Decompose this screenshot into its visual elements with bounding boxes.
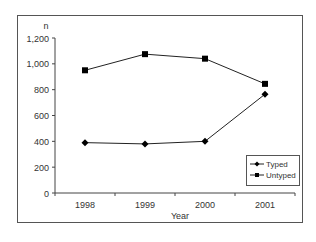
legend-label: Untyped	[266, 171, 296, 180]
y-tick-label: 200	[34, 163, 49, 173]
y-tick-label: 800	[34, 85, 49, 95]
chart-frame	[18, 16, 303, 223]
y-tick-label: 0	[44, 189, 49, 199]
y-tick-label: 600	[34, 111, 49, 121]
x-tick-label: 1999	[135, 200, 155, 210]
x-axis-label: Year	[171, 211, 189, 221]
legend: TypedUntyped	[247, 156, 300, 186]
x-tick-label: 2000	[195, 200, 215, 210]
square-marker	[202, 56, 208, 62]
square-marker	[262, 81, 268, 87]
square-marker	[142, 51, 148, 57]
y-axis-label: n	[43, 21, 48, 31]
square-marker	[255, 173, 259, 177]
y-tick-label: 400	[34, 137, 49, 147]
y-tick-label: 1,200	[26, 34, 49, 44]
legend-label: Typed	[266, 160, 288, 169]
line-chart: 02004006008001,0001,2001998199920002001 …	[0, 0, 316, 242]
y-tick-label: 1,000	[26, 59, 49, 69]
square-marker	[82, 67, 88, 73]
x-tick-label: 1998	[75, 200, 95, 210]
x-tick-label: 2001	[255, 200, 275, 210]
